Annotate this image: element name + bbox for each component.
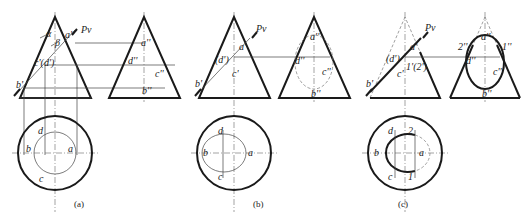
label-a-prime-c: a'	[410, 41, 418, 52]
label-d: d	[38, 125, 44, 136]
label-b-prime-b: b'	[195, 78, 203, 89]
label-b-prime-c: b'	[366, 78, 374, 89]
caption-c: (c)	[398, 199, 408, 209]
panel-a: α β a' Pv c'(d') b' a'' d'' c'' b'' b a …	[12, 12, 180, 212]
label-a: a	[68, 143, 73, 154]
caption-b: (b)	[253, 199, 264, 209]
label-b: b	[26, 143, 31, 154]
label-c-dprime-c: c''	[493, 66, 503, 77]
label-2-c: 2	[408, 125, 413, 136]
label-a-prime: a'	[65, 29, 73, 40]
label-cd-prime: c'(d')	[34, 57, 55, 69]
label-c-c: c	[388, 171, 393, 182]
cone-section-diagram: α β a' Pv c'(d') b' a'' d'' c'' b'' b a …	[0, 0, 526, 218]
label-c-dprime: c''	[155, 68, 165, 79]
label-pv-b: Pv	[255, 23, 267, 34]
label-c-prime-b: c'	[232, 68, 239, 79]
label-2-dprime-c: 2''	[458, 41, 468, 52]
label-pv-c: Pv	[424, 22, 436, 33]
label-c-b: c	[218, 171, 223, 182]
label-a-c: a	[419, 147, 424, 158]
label-c-prime-c: c'	[397, 68, 404, 79]
label-d-prime-b: (d')	[215, 54, 229, 66]
label-b-prime: b'	[16, 79, 24, 90]
panel-c: a' Pv (d') c' 1'(2') b' a'' 2'' 1'' d'' …	[362, 12, 520, 212]
label-a-prime-b: a'	[239, 41, 247, 52]
label-d-dprime-c: d''	[466, 55, 476, 66]
side-view-cone-b	[279, 17, 350, 98]
label-d-dprime-b: d''	[295, 55, 305, 66]
label-1-c: 1	[408, 171, 413, 182]
label-beta: β	[54, 37, 60, 48]
label-d-prime-c: (d')	[386, 53, 400, 65]
label-b-b: b	[203, 147, 208, 158]
label-b-dprime-c: b''	[482, 88, 492, 99]
label-pv: Pv	[80, 24, 92, 35]
label-d-c: d	[388, 125, 394, 136]
caption-a: (a)	[74, 199, 84, 209]
label-c: c	[39, 173, 44, 184]
label-b-dprime: b''	[142, 85, 152, 96]
label-b-dprime-b: b''	[311, 88, 321, 99]
label-a-b: a	[248, 147, 253, 158]
label-12-prime-c: 1'(2')	[406, 61, 428, 73]
label-1-dprime-c: 1''	[502, 41, 512, 52]
panel-b: a' Pv (d') c' b' a'' d'' c'' b'' b a d c…	[191, 12, 350, 212]
label-alpha: α	[46, 28, 52, 39]
label-b-c: b	[374, 147, 379, 158]
label-c-dprime-b: c''	[322, 66, 332, 77]
label-a-dprime-b: a''	[310, 31, 320, 42]
label-a-dprime-c: a''	[481, 31, 491, 42]
label-d-dprime: d''	[128, 55, 138, 66]
label-a-dprime: a''	[141, 37, 151, 48]
